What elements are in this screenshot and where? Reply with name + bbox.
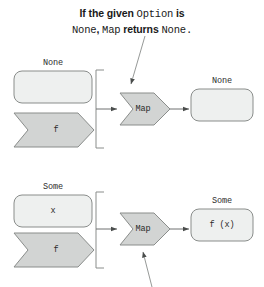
some-row-output-label: Some: [191, 196, 253, 206]
some-row-operation-label: Map: [124, 224, 162, 234]
none-row-output-label: None: [191, 76, 253, 86]
none-row-operation-label: Map: [124, 104, 162, 114]
none-row-input-label: None: [14, 58, 92, 68]
none-row-output-box: [191, 89, 253, 121]
none-row-input-box: [14, 71, 92, 103]
leader-line-to-map-top: [131, 36, 145, 84]
some-row-output-value: f (x): [191, 220, 253, 230]
diagram-shapes: [0, 0, 264, 287]
diagram-root: If the given Option is None, Map returns…: [0, 0, 264, 287]
some-row-input-label: Some: [14, 182, 92, 192]
some-row-input-value: x: [14, 206, 92, 216]
leader-line-to-map-bottom: [143, 252, 152, 287]
some-row-function-label: f: [24, 245, 88, 255]
some-row-bracket: [96, 192, 104, 268]
none-row-function-label: f: [24, 125, 88, 135]
